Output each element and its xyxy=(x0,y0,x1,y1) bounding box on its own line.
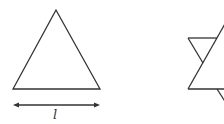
hexagram-figure xyxy=(188,22,224,103)
hexagram-down-triangle-left-edge xyxy=(188,38,203,63)
equilateral-triangle xyxy=(13,10,100,89)
equilateral-triangle-figure: l xyxy=(13,10,100,122)
hexagram-up-triangle-left-edge xyxy=(188,22,224,89)
arrowhead-right-icon xyxy=(94,103,100,108)
hexagram-lower-edge xyxy=(217,89,224,103)
diagram-canvas: l xyxy=(0,0,224,124)
length-label: l xyxy=(53,107,57,122)
arrowhead-left-icon xyxy=(13,103,19,108)
